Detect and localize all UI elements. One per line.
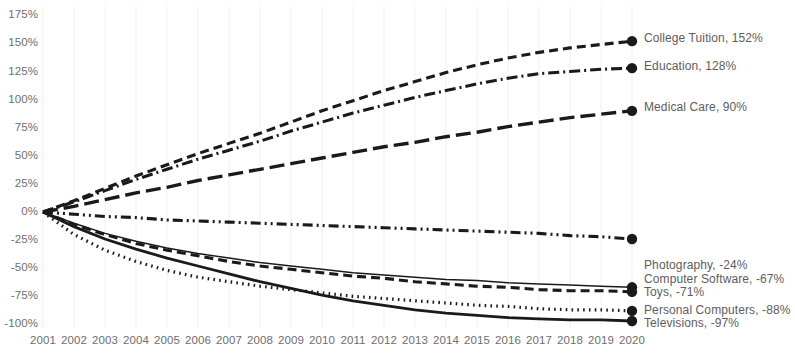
x-axis-tick-label: 2014 bbox=[430, 334, 462, 346]
x-axis-tick-label: 2004 bbox=[120, 334, 152, 346]
y-axis-tick-label: -50% bbox=[0, 261, 38, 273]
x-axis-tick-label: 2001 bbox=[27, 334, 59, 346]
y-axis-tick-label: -100% bbox=[0, 317, 38, 329]
series-label-medical-care: Medical Care, 90% bbox=[644, 100, 747, 114]
series-end-marker-college-tuition bbox=[627, 36, 637, 46]
y-axis-tick-label: 0% bbox=[0, 205, 38, 217]
series-label-photography: Photography, -24% bbox=[644, 258, 748, 272]
series-end-marker-toys bbox=[627, 287, 637, 297]
series-line-photography bbox=[43, 212, 632, 239]
x-axis-tick-label: 2010 bbox=[306, 334, 338, 346]
series-label-personal-computers: Personal Computers, -88% bbox=[644, 303, 790, 317]
x-axis-tick-label: 2012 bbox=[368, 334, 400, 346]
y-axis-tick-label: 50% bbox=[0, 149, 38, 161]
x-axis-tick-label: 2005 bbox=[151, 334, 183, 346]
series-line-medical-care bbox=[43, 111, 632, 212]
x-axis-tick-label: 2008 bbox=[244, 334, 276, 346]
x-axis-tick-label: 2017 bbox=[523, 334, 555, 346]
series-line-education bbox=[43, 68, 632, 212]
y-axis-tick-label: -75% bbox=[0, 289, 38, 301]
series-label-televisions: Televisions, -97% bbox=[644, 316, 739, 330]
series-line-college-tuition bbox=[43, 41, 632, 212]
y-axis-tick-label: 150% bbox=[0, 36, 38, 48]
series-line-televisions bbox=[43, 212, 632, 321]
series-end-marker-televisions bbox=[627, 316, 637, 326]
series-label-toys: Toys, -71% bbox=[644, 285, 704, 299]
series-end-marker-photography bbox=[627, 234, 637, 244]
x-axis-tick-label: 2016 bbox=[492, 334, 524, 346]
y-axis-tick-label: -25% bbox=[0, 233, 38, 245]
y-axis-tick-label: 125% bbox=[0, 65, 38, 77]
x-axis-tick-label: 2020 bbox=[616, 334, 648, 346]
line-chart: 175%150%125%100%75%50%25%0%-25%-50%-75%-… bbox=[0, 0, 795, 353]
y-axis-tick-label: 100% bbox=[0, 93, 38, 105]
x-axis-tick-label: 2007 bbox=[213, 334, 245, 346]
series-line-toys bbox=[43, 212, 632, 292]
x-axis-tick-label: 2015 bbox=[461, 334, 493, 346]
x-axis-tick-label: 2011 bbox=[337, 334, 369, 346]
x-axis-tick-label: 2009 bbox=[275, 334, 307, 346]
y-axis-tick-label: 75% bbox=[0, 121, 38, 133]
x-axis-tick-label: 2006 bbox=[182, 334, 214, 346]
series-label-college-tuition: College Tuition, 152% bbox=[644, 31, 763, 45]
x-axis-tick-label: 2002 bbox=[58, 334, 90, 346]
x-axis-tick-label: 2003 bbox=[89, 334, 121, 346]
series-end-marker-medical-care bbox=[627, 106, 637, 116]
series-end-marker-education bbox=[627, 63, 637, 73]
series-label-education: Education, 128% bbox=[644, 59, 736, 73]
series-end-marker-personal-computers bbox=[627, 306, 637, 316]
x-axis-tick-label: 2018 bbox=[554, 334, 586, 346]
x-axis-tick-label: 2019 bbox=[585, 334, 617, 346]
x-axis-tick-label: 2013 bbox=[399, 334, 431, 346]
y-axis-tick-label: 25% bbox=[0, 177, 38, 189]
series-label-computer-software: Computer Software, -67% bbox=[644, 272, 784, 286]
y-axis-tick-label: 175% bbox=[0, 8, 38, 20]
series-line-computer-software bbox=[43, 212, 632, 287]
chart-plot-area bbox=[0, 0, 795, 353]
